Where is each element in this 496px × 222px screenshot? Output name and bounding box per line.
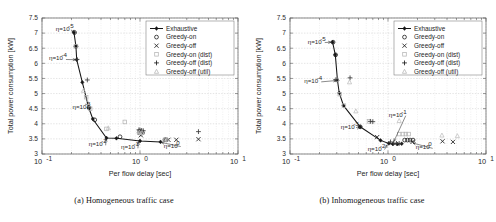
x-tick-label: 101 bbox=[230, 155, 246, 167]
svg-text:0: 0 bbox=[176, 139, 180, 146]
svg-text:-1: -1 bbox=[294, 155, 300, 162]
svg-text:-5: -5 bbox=[320, 35, 326, 42]
y-tick-label: 3.5 bbox=[277, 135, 286, 142]
y-tick-label: 6.5 bbox=[29, 45, 38, 52]
figure-b: 33.544.555.566.577.510-1100101Per flow d… bbox=[248, 0, 496, 222]
y-tick-label: 3.5 bbox=[29, 135, 38, 142]
caption-b: (b) Inhomogeneous traffic case bbox=[248, 196, 496, 205]
svg-text:10: 10 bbox=[380, 157, 388, 166]
x-axis-title: Per flow delay [sec] bbox=[357, 169, 419, 178]
y-tick-label: 7.5 bbox=[29, 14, 38, 21]
y-tick-label: 4 bbox=[34, 120, 38, 127]
y-tick-label: 6 bbox=[34, 60, 38, 67]
x-tick-label: 10-1 bbox=[282, 155, 301, 167]
eta-annotation: η=10-4 bbox=[304, 74, 336, 84]
legend-label: Greedy-off (dist) bbox=[414, 59, 460, 67]
legend-label: Greedy-off (dist) bbox=[166, 59, 212, 67]
svg-text:10: 10 bbox=[478, 157, 486, 166]
eta-annotation: η=10-1 bbox=[389, 108, 407, 142]
y-axis-title: Total power consumption [kW] bbox=[6, 38, 15, 134]
svg-text:-1: -1 bbox=[401, 108, 407, 115]
legend-label: Greedy-on (dist) bbox=[414, 51, 460, 59]
svg-text:0: 0 bbox=[392, 155, 396, 162]
y-tick-label: 6 bbox=[282, 60, 286, 67]
eta-annotation: η=10-3 bbox=[341, 120, 359, 130]
svg-text:-4: -4 bbox=[317, 74, 323, 81]
y-tick-label: 7 bbox=[34, 29, 38, 36]
eta-annotation: η=100 bbox=[413, 140, 433, 150]
eta-annotation: η=10-2 bbox=[89, 137, 107, 147]
svg-text:-3: -3 bbox=[353, 120, 359, 127]
svg-text:0: 0 bbox=[144, 155, 148, 162]
legend-label: Greedy-off bbox=[414, 42, 444, 50]
y-tick-label: 4.5 bbox=[277, 105, 286, 112]
eta-annotation: η=10-1 bbox=[121, 140, 139, 150]
y-tick-label: 5 bbox=[282, 90, 286, 97]
y-tick-label: 4 bbox=[282, 120, 286, 127]
series-greedy-off-util bbox=[81, 88, 169, 141]
svg-text:10: 10 bbox=[34, 157, 42, 166]
x-tick-label: 100 bbox=[132, 155, 148, 167]
figure-page: 33.544.555.566.577.510-1100101Per flow d… bbox=[0, 0, 496, 222]
y-tick-label: 5.5 bbox=[277, 75, 286, 82]
svg-text:10: 10 bbox=[132, 157, 140, 166]
chart-legend: ExhaustiveGreedy-onGreedy-offGreedy-on (… bbox=[394, 21, 482, 76]
eta-annotation: η=10-5 bbox=[308, 35, 331, 45]
legend-label: Exhaustive bbox=[166, 25, 198, 32]
y-tick-label: 7.5 bbox=[277, 14, 286, 21]
chart-svg-b: 33.544.555.566.577.510-1100101Per flow d… bbox=[248, 4, 496, 190]
eta-annotation: η=10-5 bbox=[56, 22, 74, 32]
legend-label: Greedy-on bbox=[166, 33, 197, 41]
legend-label: Exhaustive bbox=[414, 25, 446, 32]
legend-label: Greedy-on bbox=[414, 33, 445, 41]
legend-label: Greedy-on (dist) bbox=[166, 51, 212, 59]
y-tick-label: 5 bbox=[34, 90, 38, 97]
legend-label: Greedy-off bbox=[166, 42, 196, 50]
x-axis-title: Per flow delay [sec] bbox=[109, 169, 171, 178]
y-tick-label: 4.5 bbox=[29, 105, 38, 112]
svg-text:-2: -2 bbox=[101, 137, 107, 144]
svg-text:-2: -2 bbox=[380, 142, 386, 149]
y-tick-label: 6.5 bbox=[277, 45, 286, 52]
y-axis-title: Total power consumption [kW] bbox=[254, 38, 263, 134]
x-tick-label: 10-1 bbox=[34, 155, 53, 167]
svg-text:-5: -5 bbox=[68, 22, 74, 29]
chart-legend: ExhaustiveGreedy-onGreedy-offGreedy-on (… bbox=[146, 21, 234, 76]
svg-text:10: 10 bbox=[230, 157, 238, 166]
plot-b: 33.544.555.566.577.510-1100101Per flow d… bbox=[248, 4, 496, 190]
legend-label: Greedy-off (util) bbox=[166, 68, 210, 76]
y-tick-label: 5.5 bbox=[29, 75, 38, 82]
x-tick-label: 101 bbox=[478, 155, 494, 167]
svg-text:-3: -3 bbox=[85, 100, 91, 107]
svg-text:-1: -1 bbox=[46, 155, 52, 162]
chart-svg-a: 33.544.555.566.577.510-1100101Per flow d… bbox=[0, 4, 248, 190]
x-tick-label: 100 bbox=[380, 155, 396, 167]
svg-text:1: 1 bbox=[490, 155, 494, 162]
legend-label: Greedy-off (util) bbox=[414, 68, 458, 76]
plot-a: 33.544.555.566.577.510-1100101Per flow d… bbox=[0, 4, 248, 190]
svg-text:0: 0 bbox=[428, 140, 432, 147]
svg-text:1: 1 bbox=[242, 155, 246, 162]
figure-a: 33.544.555.566.577.510-1100101Per flow d… bbox=[0, 0, 248, 222]
y-tick-label: 7 bbox=[282, 29, 286, 36]
caption-a: (a) Homogeneous traffic case bbox=[0, 196, 248, 205]
svg-text:10: 10 bbox=[282, 157, 290, 166]
svg-text:-4: -4 bbox=[61, 51, 67, 58]
eta-annotation: η=10-2 bbox=[368, 142, 387, 152]
